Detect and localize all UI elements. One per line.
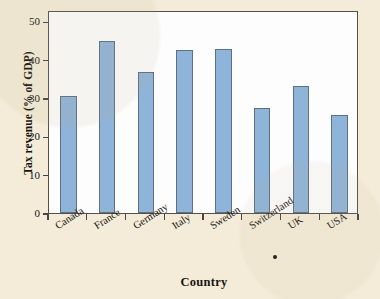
stray-dot-artifact [273, 255, 277, 259]
x-tick-mark-7 [319, 214, 320, 220]
bar-canada [60, 96, 76, 213]
x-tick-mark-5 [241, 214, 242, 220]
bar-switzerland [254, 108, 270, 213]
bar-usa [331, 115, 347, 213]
x-tick-mark-3 [164, 214, 165, 220]
x-tick-mark-1 [86, 214, 87, 220]
y-tick-label-50: 50 [0, 15, 40, 27]
bar-germany [138, 72, 154, 213]
bars-container [49, 12, 357, 213]
y-tick-label-0: 0 [0, 207, 40, 219]
plot-area [48, 11, 358, 214]
x-axis-title: Country [48, 275, 360, 290]
bar-france [99, 41, 115, 213]
x-tick-mark-4 [202, 214, 203, 220]
bar-sweden [215, 49, 231, 213]
x-tick-label-uk: UK [286, 214, 305, 231]
y-tick-mark-40 [43, 60, 49, 61]
x-tick-mark-2 [125, 214, 126, 220]
bar-uk [293, 86, 309, 213]
y-tick-mark-10 [43, 175, 49, 176]
x-tick-mark-0 [47, 214, 48, 220]
x-tick-mark-6 [280, 214, 281, 220]
y-tick-label-10: 10 [0, 169, 40, 181]
y-tick-label-20: 20 [0, 130, 40, 142]
y-tick-label-40: 40 [0, 54, 40, 66]
x-tick-label-italy: Italy [170, 212, 192, 232]
y-tick-mark-30 [43, 98, 49, 99]
x-tick-mark-8 [357, 214, 358, 220]
y-tick-mark-20 [43, 137, 49, 138]
y-tick-label-30: 30 [0, 92, 40, 104]
bar-chart-figure: Tax revenue (% of GDP) 01020304050 Canad… [0, 0, 380, 299]
y-tick-mark-50 [43, 22, 49, 23]
bar-italy [176, 50, 192, 213]
